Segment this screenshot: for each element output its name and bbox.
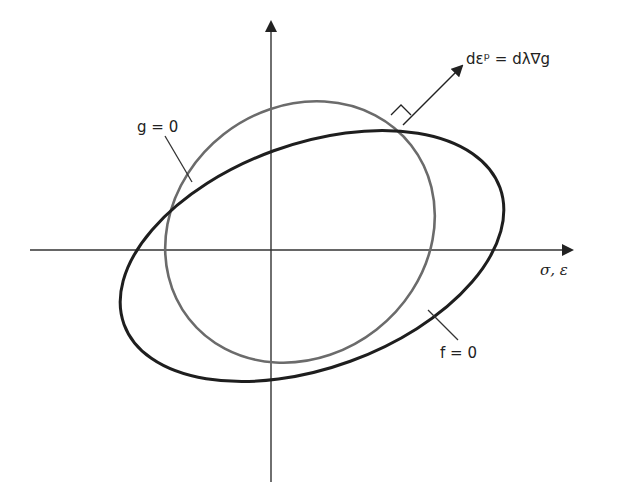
flow-vector-label: dεᵖ = dλ∇g [466,50,550,68]
horizontal-axis-label: σ, ε [540,261,568,279]
g-label-leader [165,136,192,182]
diagram-canvas: g = 0 f = 0 dεᵖ = dλ∇g σ, ε [0,0,630,503]
g-label: g = 0 [137,118,178,136]
f-label: f = 0 [440,344,477,362]
f-label-leader [428,310,458,340]
right-angle-icon [391,105,411,115]
plastic-potential-curve [113,47,488,416]
flow-vector-arrow [403,66,462,125]
